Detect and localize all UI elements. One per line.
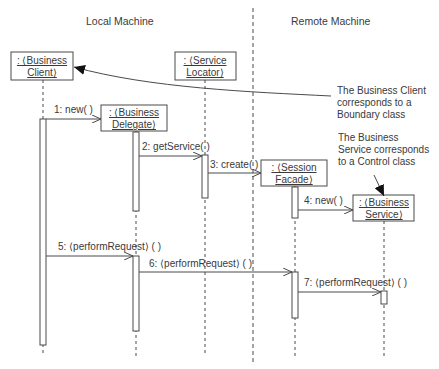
svg-text:to a Control class: to a Control class xyxy=(338,156,415,167)
svg-text:: ⟨Business: : ⟨Business xyxy=(17,55,67,66)
message-3-label: 3: create( ) xyxy=(210,159,258,170)
note-control-arrow xyxy=(374,175,384,196)
svg-text:Delegate⟩: Delegate⟩ xyxy=(112,119,156,130)
svg-text:Locator⟩: Locator⟩ xyxy=(186,67,223,78)
object-business-service: : ⟨Business Service⟩ xyxy=(353,195,414,221)
remote-machine-label: Remote Machine xyxy=(291,15,371,27)
svg-text:Service corresponds: Service corresponds xyxy=(338,144,429,155)
object-service-locator: : ⟨Service Locator⟩ xyxy=(175,52,236,80)
object-business-client: : ⟨Business Client⟩ xyxy=(11,52,73,80)
svg-text:corresponds to a: corresponds to a xyxy=(337,97,412,108)
svg-text:: ⟨Business: : ⟨Business xyxy=(109,107,159,118)
local-machine-label: Local Machine xyxy=(86,15,154,27)
message-6-label: 6: ⟨performRequest⟩ ( ) xyxy=(149,258,252,269)
svg-text:Client⟩: Client⟩ xyxy=(27,67,57,78)
sequence-diagram: Local Machine Remote Machine : ⟨Business… xyxy=(0,0,439,369)
svg-text:: ⟨Service: : ⟨Service xyxy=(184,55,227,66)
svg-text:The Business Client: The Business Client xyxy=(337,85,426,96)
message-7-label: 7: ⟨performRequest⟩ ( ) xyxy=(304,277,407,288)
activation-service-locator xyxy=(202,155,208,198)
message-4-label: 4: new( ) xyxy=(304,195,343,206)
svg-text:Facade⟩: Facade⟩ xyxy=(275,174,312,185)
activation-session-facade-2 xyxy=(292,272,298,318)
note-control-class: The Business Service corresponds to a Co… xyxy=(338,132,429,196)
message-1-label: 1: new( ) xyxy=(54,104,93,115)
object-business-delegate: : ⟨Business Delegate⟩ xyxy=(101,105,167,131)
svg-text:The Business: The Business xyxy=(338,132,399,143)
message-2-label: 2: getService( ) xyxy=(142,141,210,152)
activation-session-facade-1 xyxy=(292,187,298,218)
activation-business-delegate-2 xyxy=(133,256,139,331)
svg-text:: ⟨Session: : ⟨Session xyxy=(271,162,316,173)
svg-text:Boundary class: Boundary class xyxy=(337,109,405,120)
message-5-label: 5: ⟨performRequest⟩ ( ) xyxy=(58,241,161,252)
svg-text:Service⟩: Service⟩ xyxy=(365,209,402,220)
svg-text:: ⟨Business: : ⟨Business xyxy=(359,197,409,208)
activation-business-delegate-1 xyxy=(133,132,139,211)
object-session-facade: : ⟨Session Facade⟩ xyxy=(261,160,327,186)
activation-business-service xyxy=(381,291,387,304)
activation-business-client xyxy=(40,119,46,345)
